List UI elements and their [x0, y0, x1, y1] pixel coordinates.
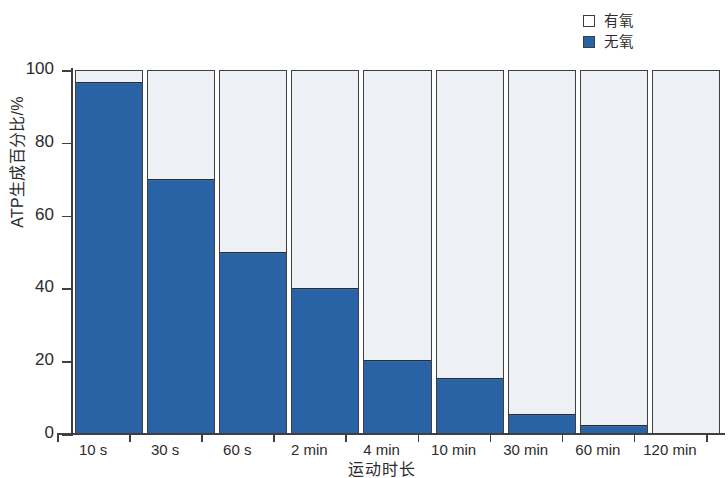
y-tick-label: 20 [2, 350, 54, 370]
y-tick-label: 0 [2, 423, 54, 443]
x-axis-title: 运动时长 [0, 456, 728, 478]
y-tick-label: 60 [2, 205, 54, 225]
bar-segment-aerobic [76, 71, 142, 82]
bar-segment-aerobic [653, 71, 719, 433]
stacked-bar[interactable] [291, 70, 359, 434]
bar-segment-aerobic [220, 71, 286, 252]
bar-segment-anaerobic [148, 179, 214, 433]
stacked-bar[interactable] [652, 70, 720, 434]
stacked-bar[interactable] [363, 70, 431, 434]
bar-slot [73, 70, 145, 434]
bar-segment-anaerobic [437, 378, 503, 433]
legend-item-aerobic: 有氧 [583, 12, 713, 30]
legend-item-anaerobic: 无氧 [583, 33, 713, 51]
bar-slot [361, 70, 433, 434]
y-tick-mark [62, 70, 72, 72]
bar-segment-aerobic [437, 71, 503, 378]
legend-label-aerobic: 有氧 [604, 14, 633, 29]
bar-slot [578, 70, 650, 434]
bar-segment-anaerobic [220, 252, 286, 434]
y-tick-label: 40 [2, 277, 54, 297]
y-tick-mark [62, 361, 72, 363]
bar-segment-aerobic [148, 71, 214, 179]
y-tick-mark [62, 143, 72, 145]
bar-segment-aerobic [581, 71, 647, 425]
bar-segment-anaerobic [292, 288, 358, 433]
bar-slot [217, 70, 289, 434]
y-tick-mark [62, 288, 72, 290]
legend-swatch-anaerobic-icon [583, 36, 595, 48]
y-tick-mark [62, 216, 72, 218]
bar-slot [650, 70, 722, 434]
stacked-bar[interactable] [436, 70, 504, 434]
y-tick-label: 100 [2, 59, 54, 79]
y-tick-label: 80 [2, 132, 54, 152]
bar-segment-anaerobic [509, 414, 575, 433]
stacked-bar[interactable] [580, 70, 648, 434]
stacked-bar[interactable] [147, 70, 215, 434]
bar-segment-anaerobic [76, 82, 142, 433]
bar-group [73, 70, 722, 434]
bar-segment-anaerobic [581, 425, 647, 433]
y-axis-title: ATP生成百分比/% [4, 62, 28, 262]
stacked-bar-chart: 有氧 无氧 ATP生成百分比/% 100806040200 10 s30 s60… [0, 0, 728, 478]
bar-segment-aerobic [364, 71, 430, 360]
chart-legend: 有氧 无氧 [583, 12, 713, 54]
bar-segment-aerobic [509, 71, 575, 414]
stacked-bar[interactable] [75, 70, 143, 434]
legend-label-anaerobic: 无氧 [604, 35, 633, 50]
x-axis-line [57, 433, 725, 435]
bar-slot [145, 70, 217, 434]
stacked-bar[interactable] [508, 70, 576, 434]
bar-segment-aerobic [292, 71, 358, 288]
bar-slot [289, 70, 361, 434]
stacked-bar[interactable] [219, 70, 287, 434]
legend-swatch-aerobic-icon [583, 15, 595, 27]
bar-slot [506, 70, 578, 434]
plot-area [73, 70, 722, 434]
bar-slot [434, 70, 506, 434]
bar-segment-anaerobic [364, 360, 430, 433]
x-tick-mark [706, 433, 708, 442]
